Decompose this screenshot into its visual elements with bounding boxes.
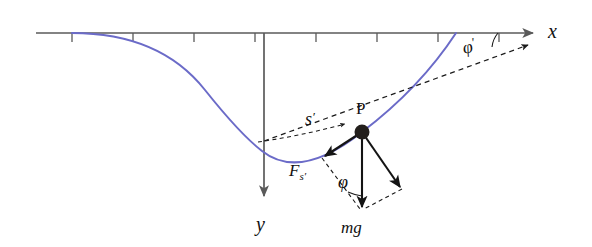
normal-force-vector bbox=[362, 132, 400, 187]
tangential-force-label: Fs′ bbox=[288, 161, 307, 182]
x-axis-ticks bbox=[72, 33, 499, 42]
phi-angle-label: φ bbox=[338, 172, 348, 192]
x-axis-group bbox=[36, 33, 533, 42]
x-axis-label: x bbox=[547, 20, 557, 42]
phi-prime-angle-arc bbox=[492, 33, 498, 47]
arc-length-label: s′ bbox=[305, 109, 315, 129]
point-p-dot bbox=[355, 125, 370, 140]
weight-label: mg bbox=[341, 218, 362, 237]
point-p-label: P bbox=[356, 99, 365, 118]
tangent-dashed-line bbox=[264, 45, 528, 141]
phi-prime-angle-label: φ′ bbox=[460, 35, 477, 58]
y-axis-label: y bbox=[254, 213, 265, 236]
parallelogram-side-right bbox=[364, 189, 402, 209]
diagram-canvas: x y P s′ Fs′ mg φ φ′ bbox=[0, 0, 592, 247]
physics-diagram-figure: x y P s′ Fs′ mg φ φ′ bbox=[0, 0, 592, 247]
